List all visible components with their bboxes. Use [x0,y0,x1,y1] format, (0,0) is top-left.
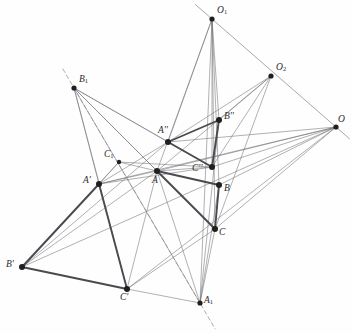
thin-line-A1-B [200,185,219,303]
point-label-Cp: C' [120,293,128,303]
point-label-O1: O1 [217,6,227,16]
vertex-point-Bp[interactable] [19,264,25,270]
point-label-A2: A'' [158,126,168,136]
triangle-A-dprime-edge-C2-A2 [168,142,212,167]
thin-line-C1-Ap [99,162,119,184]
thin-line-Cp-A1 [127,289,200,303]
vertex-point-B[interactable] [216,182,222,188]
vertex-point-A[interactable] [154,168,160,174]
point-label-C2: C'' [192,164,202,174]
vertex-point-A1[interactable] [197,300,202,305]
vertex-point-B1[interactable] [71,85,76,90]
thin-line-Bp-A2 [22,142,168,267]
diagram-canvas [0,0,352,334]
point-label-B2: B'' [224,112,234,122]
geometry-figure: O1O2OB1A''B''C''C1ABCA'B'C'A1 [0,0,352,334]
vertex-points-group [19,16,339,305]
point-label-Bp: B' [6,260,14,270]
vertex-point-O2[interactable] [268,73,273,78]
vertex-point-Ap[interactable] [96,181,102,187]
triangle-ABC-edge-C-A [157,171,215,229]
thin-line-A1-C [200,229,215,303]
thin-line-C1-A [119,162,157,171]
thin-line-O2-A2 [168,76,271,142]
triangle-A-prime-edge-Cp-Ap [99,184,127,289]
point-label-Ap: A' [83,176,91,186]
vertex-point-C2[interactable] [209,164,215,170]
point-label-C: C [219,228,225,238]
triangle-A-prime-edge-Ap-Bp [22,184,99,267]
point-label-B: B [224,184,230,194]
triangle-ABC-edge-A-B [157,171,219,185]
point-label-A1: A1 [204,296,213,306]
triangle-A-prime-edge-Bp-Cp [22,267,127,289]
vertex-point-A2[interactable] [165,139,171,145]
vertex-point-O1[interactable] [209,16,214,21]
point-label-O: O [338,115,345,125]
thin-line-O-C2 [212,127,336,167]
point-label-A: A [152,176,158,186]
triangle-edges-group [22,120,219,289]
triangle-A-dprime-edge-A2-B2 [168,120,219,142]
thin-line-O2-C [215,76,271,229]
thin-lines-group [22,19,336,303]
vertex-point-O[interactable] [333,124,338,129]
point-label-B1: B1 [79,75,88,85]
vertex-point-C[interactable] [212,226,218,232]
vertex-point-B2[interactable] [216,117,222,123]
vertex-point-C1[interactable] [117,160,121,164]
thin-line-O-Cp [127,127,336,289]
point-label-O2: O2 [276,63,286,73]
point-label-C1: C1 [104,150,114,160]
